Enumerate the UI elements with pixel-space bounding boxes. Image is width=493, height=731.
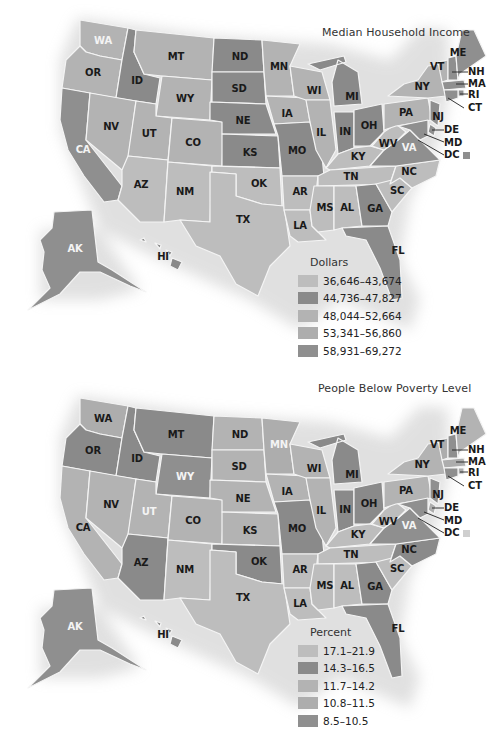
legend-swatch: [298, 275, 318, 287]
state-MA: [442, 80, 466, 90]
callout-NH: NH: [468, 444, 485, 455]
label-IL: IL: [316, 505, 326, 516]
state-MA: [442, 458, 466, 468]
label-OK: OK: [251, 178, 267, 189]
label-NJ: NJ: [432, 489, 444, 500]
callout-NH: NH: [468, 66, 485, 77]
label-VT: VT: [430, 439, 444, 450]
label-NV: NV: [103, 499, 119, 510]
callout-MA: MA: [468, 456, 486, 467]
label-AZ: AZ: [134, 179, 149, 190]
label-VT: VT: [430, 61, 444, 72]
label-MO: MO: [288, 523, 306, 534]
label-NC: NC: [401, 544, 416, 555]
legend-label: 36,646–43,674: [323, 275, 402, 287]
label-AK: AK: [67, 621, 82, 632]
label-MT: MT: [168, 51, 184, 62]
dc-swatch: [463, 530, 470, 537]
label-MO: MO: [288, 145, 306, 156]
label-NJ: NJ: [432, 111, 444, 122]
label-CO: CO: [185, 137, 200, 148]
legend-item: 17.1–21.9: [298, 642, 375, 660]
legend-item: 8.5–10.5: [298, 712, 375, 730]
label-SC: SC: [390, 185, 404, 196]
income-map-title: Median Household Income: [322, 26, 470, 39]
legend-label: 11.7–14.2: [323, 680, 375, 692]
label-OR: OR: [85, 67, 101, 78]
legend-item: 58,931–69,272: [298, 342, 402, 360]
legend-swatch: [298, 680, 318, 692]
label-LA: LA: [293, 598, 307, 609]
legend-swatch: [298, 327, 318, 339]
label-TN: TN: [344, 549, 359, 560]
legend-item: 44,736–47,827: [298, 290, 402, 308]
legend-item: 10.8–11.5: [298, 695, 375, 713]
label-WV: WV: [379, 516, 397, 527]
label-KS: KS: [243, 525, 258, 536]
label-KY: KY: [351, 151, 366, 162]
legend-title: Percent: [310, 626, 375, 639]
legend-label: 8.5–10.5: [323, 715, 368, 727]
label-TN: TN: [344, 171, 359, 182]
label-CO: CO: [185, 515, 200, 526]
legend-item: 48,044–52,664: [298, 307, 402, 325]
legend-swatch: [298, 662, 318, 674]
label-AZ: AZ: [134, 557, 149, 568]
label-WA: WA: [94, 413, 112, 424]
income-map-panel: Median Household Income WA OR CA ID NV M…: [0, 0, 493, 357]
legend-label: 14.3–16.5: [323, 662, 375, 674]
label-NC: NC: [401, 166, 416, 177]
callout-CT: CT: [468, 102, 482, 113]
legend-swatch: [298, 697, 318, 709]
label-LA: LA: [293, 220, 307, 231]
label-SC: SC: [390, 563, 404, 574]
label-WY: WY: [176, 93, 194, 104]
label-WV: WV: [379, 138, 397, 149]
callout-DE: DE: [444, 124, 459, 135]
callout-DE: DE: [444, 502, 459, 513]
label-HI: HI: [157, 629, 169, 640]
label-FL: FL: [392, 245, 405, 256]
label-CA: CA: [76, 144, 91, 155]
label-IL: IL: [316, 127, 326, 138]
legend-label: 48,044–52,664: [323, 310, 402, 322]
label-IA: IA: [281, 486, 292, 497]
label-SD: SD: [231, 83, 246, 94]
label-TX: TX: [236, 592, 250, 603]
label-IA: IA: [281, 108, 292, 119]
label-AK: AK: [67, 243, 82, 254]
label-AR: AR: [292, 186, 307, 197]
legend-title: Dollars: [310, 256, 402, 269]
label-NV: NV: [103, 121, 119, 132]
label-HI: HI: [157, 251, 169, 262]
legend-item: 14.3–16.5: [298, 660, 375, 678]
callout-MA: MA: [468, 78, 486, 89]
legend-label: 10.8–11.5: [323, 697, 375, 709]
label-MT: MT: [168, 429, 184, 440]
legend-swatch: [298, 715, 318, 727]
label-MN: MN: [270, 61, 288, 72]
legend-swatch: [298, 645, 318, 657]
label-MS: MS: [317, 580, 334, 591]
income-legend: Dollars 36,646–43,674 44,736–47,827 48,0…: [298, 256, 402, 360]
label-MI: MI: [345, 469, 358, 480]
label-OH: OH: [361, 120, 377, 131]
label-IN: IN: [339, 504, 351, 515]
label-AL: AL: [340, 202, 354, 213]
label-ND: ND: [232, 429, 248, 440]
label-TX: TX: [236, 214, 250, 225]
label-PA: PA: [399, 485, 413, 496]
legend-label: 44,736–47,827: [323, 292, 402, 304]
label-WA: WA: [94, 35, 112, 46]
label-MS: MS: [317, 202, 334, 213]
label-SD: SD: [231, 461, 246, 472]
label-ID: ID: [131, 453, 143, 464]
legend-item: 53,341–56,860: [298, 325, 402, 343]
label-NY: NY: [414, 459, 429, 470]
label-UT: UT: [142, 506, 157, 517]
callout-CT: CT: [468, 480, 482, 491]
label-AR: AR: [292, 564, 307, 575]
label-KY: KY: [351, 529, 366, 540]
state-RI: [458, 90, 464, 96]
legend-item: 36,646–43,674: [298, 272, 402, 290]
